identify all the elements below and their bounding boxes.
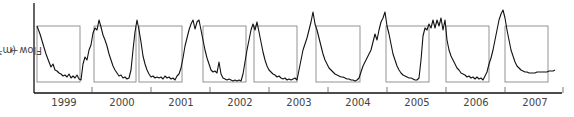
x-tick-label-2003: 2003 <box>286 97 311 108</box>
x-tick-label-2001: 2001 <box>168 97 193 108</box>
recession-box-2002 <box>203 26 246 82</box>
x-tick-label-2002: 2002 <box>227 97 252 108</box>
flow-line <box>37 10 555 81</box>
x-tick-label-2004: 2004 <box>345 97 370 108</box>
x-tick-label-1999: 1999 <box>51 97 76 108</box>
y-axis-label: Flow (m³/s) → <box>2 0 26 100</box>
y-axis-label-text: Flow (m³/s) <box>0 45 42 56</box>
x-tick-label-2006: 2006 <box>463 97 488 108</box>
x-tick-label-2007: 2007 <box>522 97 547 108</box>
recession-box-1999 <box>37 26 80 82</box>
x-tick-label-2000: 2000 <box>109 97 134 108</box>
x-tick-label-2005: 2005 <box>404 97 429 108</box>
x-ticks <box>92 87 563 93</box>
recession-box-2007 <box>505 26 548 82</box>
recession-box-2003 <box>254 26 297 82</box>
recession-box-2006 <box>446 26 489 82</box>
recession-box-2001 <box>139 26 182 82</box>
up-arrow-icon: → <box>10 45 18 56</box>
recession-boxes <box>37 26 548 82</box>
